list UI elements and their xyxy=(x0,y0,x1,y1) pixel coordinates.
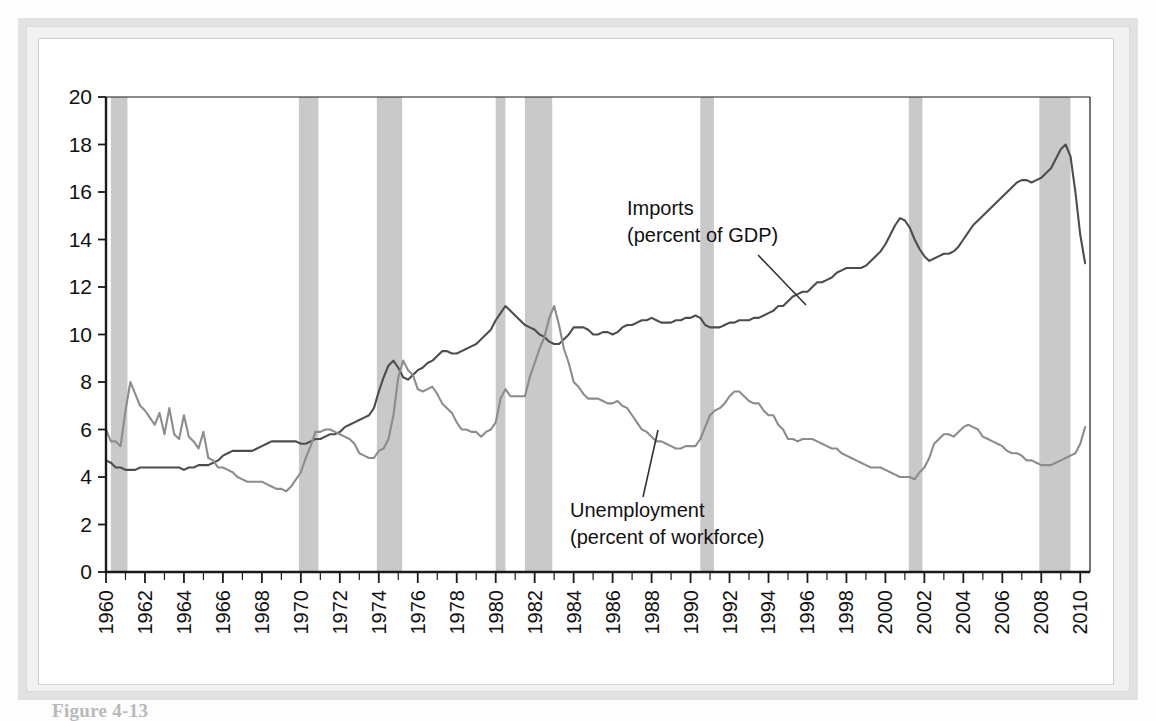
x-tick-label: 1996 xyxy=(796,590,818,635)
y-tick-label: 0 xyxy=(80,560,92,583)
x-tick-label: 1964 xyxy=(173,590,195,635)
y-tick-label: 20 xyxy=(69,85,92,108)
recession-band xyxy=(909,97,923,572)
x-tick-label: 1978 xyxy=(446,590,468,635)
chart-container: 02468101214161820 1960196219641966196819… xyxy=(0,0,1156,721)
figure-page: 02468101214161820 1960196219641966196819… xyxy=(0,0,1156,721)
y-tick-label: 10 xyxy=(69,323,92,346)
x-tick-label: 1970 xyxy=(290,590,312,635)
recession-band xyxy=(377,97,402,572)
imports-leader-line xyxy=(758,255,806,305)
line-chart: 02468101214161820 1960196219641966196819… xyxy=(0,0,1156,721)
unemployment-annotation-line2: (percent of workforce) xyxy=(570,526,765,548)
imports-annotation-line1: Imports xyxy=(627,197,694,219)
x-tick-label: 1988 xyxy=(641,590,663,635)
x-tick-label: 2008 xyxy=(1030,590,1052,635)
y-tick-label: 12 xyxy=(69,275,92,298)
recession-band xyxy=(299,97,318,572)
x-tick-label: 1998 xyxy=(835,590,857,635)
unemployment-annotation-line1: Unemployment xyxy=(570,499,705,521)
x-tick-label: 2010 xyxy=(1069,590,1091,635)
unemployment-annotation: Unemployment (percent of workforce) xyxy=(570,430,765,548)
y-tick-label: 4 xyxy=(80,465,92,488)
x-tick-label: 1986 xyxy=(602,590,624,635)
unemployment-leader-line xyxy=(643,430,658,497)
x-tick-label: 1992 xyxy=(719,590,741,635)
x-tick-label: 2002 xyxy=(913,590,935,635)
x-tick-label: 1962 xyxy=(134,590,156,635)
y-tick-label: 16 xyxy=(69,180,92,203)
figure-caption: Figure 4-13 xyxy=(52,700,148,721)
x-tick-label: 1966 xyxy=(212,590,234,635)
x-tick-label: 1968 xyxy=(251,590,273,635)
x-tick-label: 2000 xyxy=(874,590,896,635)
y-tick-label: 6 xyxy=(80,418,92,441)
y-tick-label: 2 xyxy=(80,513,92,536)
x-axis-tick-labels: 1960196219641966196819701972197419761978… xyxy=(95,590,1091,635)
x-tick-label: 1994 xyxy=(757,590,779,635)
y-tick-label: 8 xyxy=(80,370,92,393)
recession-band xyxy=(111,97,128,572)
x-tick-label: 1976 xyxy=(407,590,429,635)
x-tick-label: 1984 xyxy=(563,590,585,635)
x-tick-label: 1974 xyxy=(368,590,390,635)
imports-annotation-line2: (percent of GDP) xyxy=(627,224,778,246)
x-tick-label: 1960 xyxy=(95,590,117,635)
imports-annotation: Imports (percent of GDP) xyxy=(627,197,806,305)
x-tick-label: 2006 xyxy=(991,590,1013,635)
y-tick-label: 14 xyxy=(69,228,93,251)
data-series-group xyxy=(106,145,1085,492)
x-tick-label: 1980 xyxy=(485,590,507,635)
x-tick-label: 1972 xyxy=(329,590,351,635)
x-tick-label: 1982 xyxy=(524,590,546,635)
x-tick-label: 2004 xyxy=(952,590,974,635)
y-axis-tick-labels: 02468101214161820 xyxy=(69,85,93,583)
y-tick-label: 18 xyxy=(69,133,92,156)
series-line-imports xyxy=(106,145,1085,470)
recession-band xyxy=(1039,97,1070,572)
x-tick-label: 1990 xyxy=(680,590,702,635)
recession-band xyxy=(496,97,506,572)
